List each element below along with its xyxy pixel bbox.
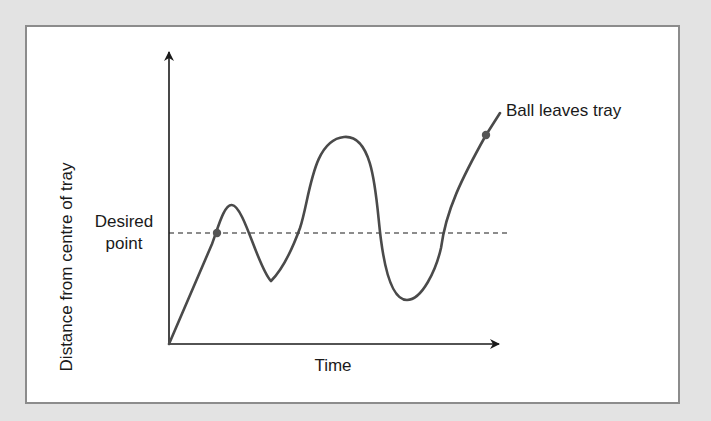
- ball-trajectory-line: [169, 113, 500, 344]
- ball-leaves-tray-annotation: Ball leaves tray: [506, 101, 621, 120]
- x-axis-label: Time: [300, 356, 366, 375]
- ball-leaves-tray-marker: [482, 131, 490, 139]
- desired-point-label: Desired point: [84, 211, 164, 255]
- desired-point-label-line1: Desired: [84, 211, 164, 233]
- desired-point-marker: [213, 229, 221, 237]
- desired-point-label-line2: point: [84, 233, 164, 255]
- y-axis-label: Distance from centre of tray: [57, 163, 77, 372]
- figure: Distance from centre of tray Desired poi…: [0, 0, 711, 421]
